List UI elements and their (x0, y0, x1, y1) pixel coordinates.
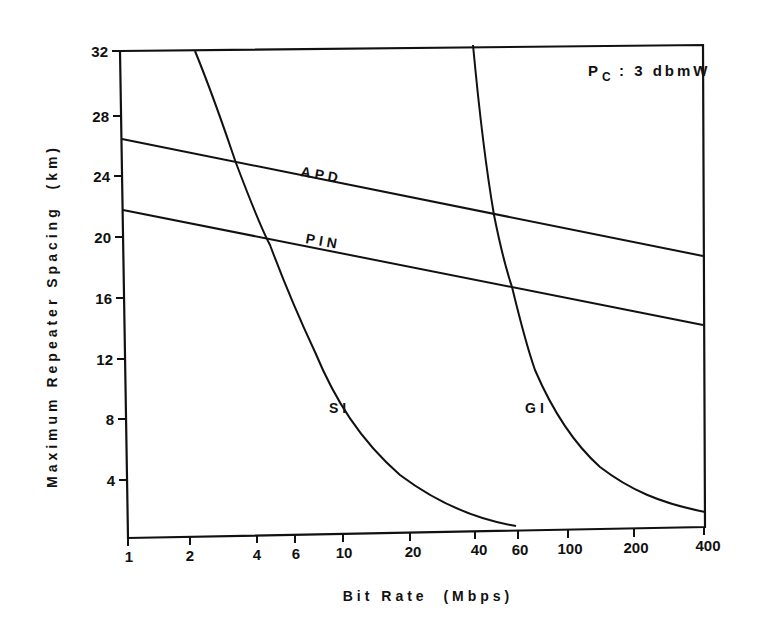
x-axis-title: Bit Rate (Mbps) (343, 588, 514, 604)
series-pin-line (123, 210, 703, 325)
pin-label: PIN (304, 230, 342, 252)
series-apd-line (122, 139, 703, 256)
power-annotation: P C : 3 dbmW (588, 62, 711, 84)
y-tick-label: 24 (93, 168, 110, 185)
y-tick-label: 8 (106, 411, 114, 428)
x-tick-label: 200 (623, 539, 648, 556)
series-si-curve (195, 51, 516, 526)
apd-label: APD (299, 163, 343, 186)
y-tick-label: 20 (94, 229, 111, 246)
annotation-value: : 3 dbmW (619, 62, 711, 79)
chart-canvas: 32 28 24 20 16 12 8 4 1 2 4 6 10 20 40 6… (0, 0, 764, 637)
y-tick-label: 16 (95, 290, 112, 307)
gi-label: GI (525, 400, 548, 416)
x-tick-label: 6 (292, 545, 300, 562)
x-tick-label: 60 (512, 541, 529, 558)
x-tick-label: 100 (557, 540, 582, 557)
y-tick-label: 12 (96, 351, 113, 368)
y-tick-label: 32 (91, 43, 108, 60)
x-tick-label: 20 (405, 543, 422, 560)
y-tick-label: 28 (92, 108, 109, 125)
x-tick-label: 4 (253, 546, 262, 563)
series-gi-curve (473, 45, 705, 512)
y-axis-title: Maximum Repeater Spacing (km) (44, 144, 60, 488)
plot-frame (120, 45, 705, 538)
x-tick-label: 10 (336, 544, 353, 561)
x-tick-label: 2 (186, 547, 194, 564)
annotation-sub-c: C (602, 70, 614, 84)
annotation-p: P (588, 62, 601, 79)
x-tick-label: 1 (125, 548, 133, 565)
x-tick-label: 40 (471, 541, 488, 558)
y-tick-label: 4 (107, 472, 116, 489)
si-label: SI (329, 400, 350, 416)
x-tick-label: 400 (695, 537, 720, 554)
